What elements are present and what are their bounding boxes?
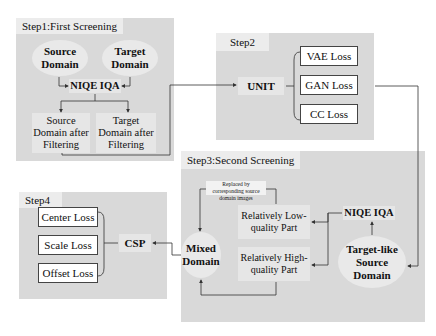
connector-lines <box>0 0 436 336</box>
